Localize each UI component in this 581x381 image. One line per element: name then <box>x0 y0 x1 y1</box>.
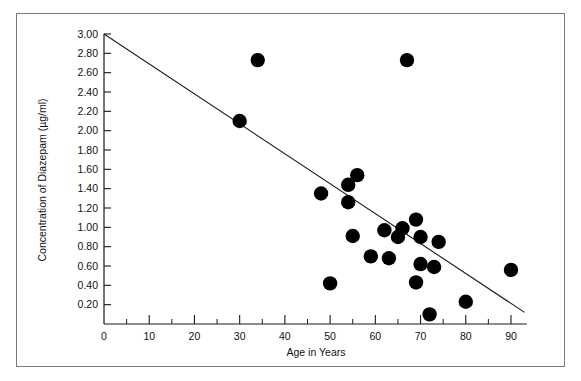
y-tick-label: 2.20 <box>78 105 99 117</box>
y-tick-labels: 0.200.400.600.801.001.201.401.601.802.00… <box>78 28 99 311</box>
y-tick-label: 1.40 <box>78 182 99 194</box>
y-tick-label: 0.40 <box>78 279 99 291</box>
x-tick-label: 80 <box>460 330 472 342</box>
x-tick-label: 0 <box>101 330 107 342</box>
data-point <box>504 263 518 277</box>
data-point <box>382 251 396 265</box>
y-tick-label: 2.60 <box>78 66 99 78</box>
y-tick-label: 0.60 <box>78 260 99 272</box>
data-point <box>323 276 337 290</box>
data-point <box>427 260 441 274</box>
x-tick-label: 10 <box>143 330 155 342</box>
y-tick-label: 1.80 <box>78 144 99 156</box>
y-tick-label: 2.80 <box>78 47 99 59</box>
data-point <box>400 53 414 67</box>
y-tick-label: 1.60 <box>78 163 99 175</box>
data-point <box>377 223 391 237</box>
data-point <box>364 249 378 263</box>
figure-container: 0.200.400.600.801.001.201.401.601.802.00… <box>0 0 581 381</box>
data-point <box>314 186 328 200</box>
x-axis-title: Age in Years <box>287 346 346 358</box>
data-points <box>232 53 518 322</box>
data-point <box>413 257 427 271</box>
y-tick-label: 1.20 <box>78 202 99 214</box>
x-tick-label: 40 <box>279 330 291 342</box>
y-tick-label: 2.40 <box>78 86 99 98</box>
x-axis <box>104 315 527 324</box>
regression-line <box>104 34 525 312</box>
x-tick-labels: 0102030405060708090 <box>101 330 517 342</box>
x-tick-label: 50 <box>324 330 336 342</box>
data-point <box>422 307 436 321</box>
data-point <box>341 195 355 209</box>
y-tick-label: 0.80 <box>78 240 99 252</box>
data-point <box>391 230 405 244</box>
data-point <box>346 229 360 243</box>
x-tick-label: 20 <box>189 330 201 342</box>
scatter-plot: 0.200.400.600.801.001.201.401.601.802.00… <box>0 0 581 381</box>
data-point <box>413 230 427 244</box>
y-axis-title: Concentration of Diazepam (µg/ml) <box>36 98 48 261</box>
x-tick-label: 30 <box>234 330 246 342</box>
data-point <box>409 212 423 226</box>
y-tick-label: 3.00 <box>78 28 99 40</box>
data-point <box>251 53 265 67</box>
x-tick-label: 70 <box>415 330 427 342</box>
data-point <box>459 295 473 309</box>
data-point <box>232 114 246 128</box>
data-point <box>409 275 423 289</box>
y-tick-label: 0.20 <box>78 298 99 310</box>
x-tick-label: 90 <box>505 330 517 342</box>
y-axis <box>104 34 111 324</box>
y-tick-label: 2.00 <box>78 124 99 136</box>
regression-line-path <box>104 34 525 312</box>
data-point <box>341 178 355 192</box>
y-tick-label: 1.00 <box>78 221 99 233</box>
data-point <box>431 235 445 249</box>
x-tick-label: 60 <box>369 330 381 342</box>
